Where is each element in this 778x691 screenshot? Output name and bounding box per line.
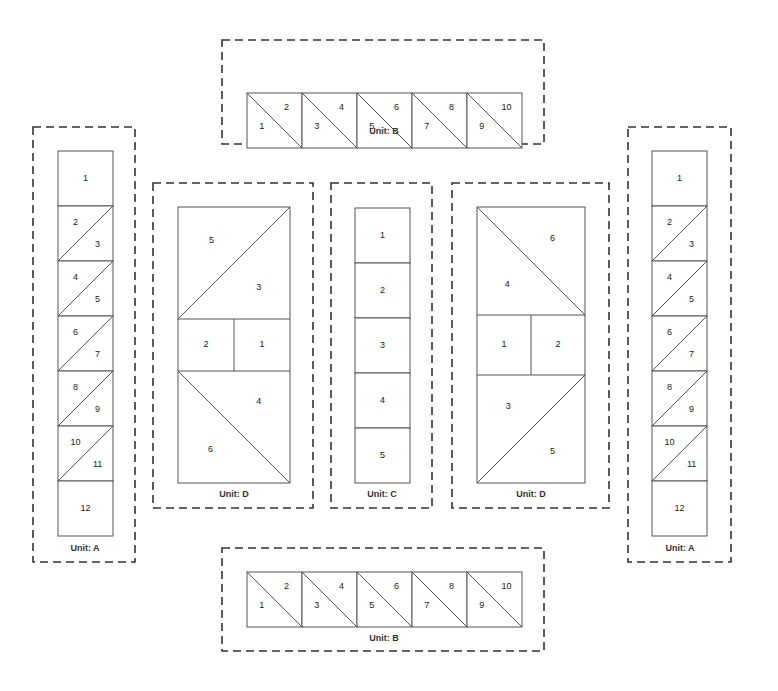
piece-number: 4: [339, 581, 344, 591]
piece-number: 2: [667, 217, 672, 227]
piece-number: 2: [555, 339, 560, 349]
unit-a-left: 123456789101112Unit: A: [33, 127, 135, 562]
hst-block: 1011: [652, 426, 707, 481]
piece-number: 3: [314, 600, 319, 610]
piece-number: 6: [208, 444, 213, 454]
unit-d-right: 463512Unit: D: [452, 183, 609, 508]
piece-number: 9: [95, 404, 100, 414]
piece-number: 10: [502, 581, 512, 591]
piece-number: 2: [73, 217, 78, 227]
hst-block: 12: [247, 93, 302, 148]
hst-block: 23: [58, 206, 113, 261]
piece-number: 5: [550, 446, 555, 456]
piece-number: 3: [314, 121, 319, 131]
piece-number: 7: [424, 600, 429, 610]
piece-number: 7: [424, 121, 429, 131]
piece-number: 4: [339, 102, 344, 112]
unit-b-bottom: 12345678910Unit: B: [222, 548, 544, 651]
hst-block: 56: [357, 93, 412, 148]
piece-number: 3: [95, 239, 100, 249]
piece-number: 5: [689, 294, 694, 304]
unit-c: 12345Unit: C: [331, 183, 432, 508]
piece-number: 12: [80, 503, 90, 513]
piece-number: 1: [259, 121, 264, 131]
piece-number: 2: [284, 581, 289, 591]
piece-number: 9: [479, 600, 484, 610]
hst-block: 910: [467, 572, 522, 627]
unit-label: Unit: D: [516, 489, 546, 499]
piece-number: 7: [689, 349, 694, 359]
piece-number: 6: [667, 327, 672, 337]
hst-block: 34: [302, 93, 357, 148]
hst-block: 12: [247, 572, 302, 627]
piece-number: 10: [502, 102, 512, 112]
piece-number: 1: [677, 173, 682, 183]
piece-number: 6: [73, 327, 78, 337]
piece-number: 8: [449, 581, 454, 591]
hst-block: 67: [58, 316, 113, 371]
piece-number: 5: [209, 235, 214, 245]
piece-number: 3: [506, 401, 511, 411]
piece-number: 1: [259, 600, 264, 610]
hst-block: 89: [58, 371, 113, 426]
piece-number: 4: [667, 272, 672, 282]
unit-label: Unit: C: [367, 489, 397, 499]
hst-block: 78: [412, 572, 467, 627]
piece-number: 8: [73, 382, 78, 392]
piece-number: 11: [687, 459, 696, 469]
hst-block: 45: [58, 261, 113, 316]
unit-label: Unit: A: [70, 543, 100, 553]
hst-block: 1011: [58, 426, 113, 481]
piece-number: 2: [203, 339, 208, 349]
piece-number: 2: [380, 285, 385, 295]
piece-number: 9: [479, 121, 484, 131]
hst-block: 910: [467, 93, 522, 148]
piece-number: 12: [674, 503, 684, 513]
piece-number: 6: [394, 102, 399, 112]
unit-b-top: 12345678910Unit: B: [222, 40, 544, 148]
hst-block: 89: [652, 371, 707, 426]
piece-number: 5: [369, 600, 374, 610]
piece-number: 5: [380, 450, 385, 460]
hst-block: 45: [652, 261, 707, 316]
hst-block: 67: [652, 316, 707, 371]
piece-number: 4: [256, 396, 261, 406]
piece-number: 5: [95, 294, 100, 304]
piece-number: 8: [667, 382, 672, 392]
piece-number: 1: [83, 173, 88, 183]
hst-block: 23: [652, 206, 707, 261]
piece-number: 3: [256, 282, 261, 292]
unit-label: Unit: B: [369, 633, 399, 643]
piece-number: 11: [93, 459, 102, 469]
piece-number: 8: [449, 102, 454, 112]
piece-number: 1: [501, 339, 506, 349]
piece-number: 6: [394, 581, 399, 591]
piece-number: 10: [71, 437, 81, 447]
unit-d-left: 534621Unit: D: [153, 183, 313, 508]
unit-a-right: 123456789101112Unit: A: [628, 127, 731, 562]
hst-block: 34: [302, 572, 357, 627]
piece-number: 3: [380, 340, 385, 350]
unit-label: Unit: A: [665, 543, 695, 553]
piece-number: 4: [505, 279, 510, 289]
piece-number: 10: [665, 437, 675, 447]
piece-number: 4: [380, 395, 385, 405]
quilt-units-diagram: 12345678910Unit: B123456789101112Unit: A…: [0, 0, 778, 691]
piece-number: 2: [284, 102, 289, 112]
piece-number: 3: [689, 239, 694, 249]
piece-number: 1: [259, 339, 264, 349]
piece-number: 6: [550, 233, 555, 243]
unit-label: Unit: B: [369, 126, 399, 136]
piece-number: 1: [380, 230, 385, 240]
unit-label: Unit: D: [219, 489, 249, 499]
hst-block: 78: [412, 93, 467, 148]
piece-number: 4: [73, 272, 78, 282]
hst-block: 56: [357, 572, 412, 627]
piece-number: 7: [95, 349, 100, 359]
piece-number: 9: [689, 404, 694, 414]
